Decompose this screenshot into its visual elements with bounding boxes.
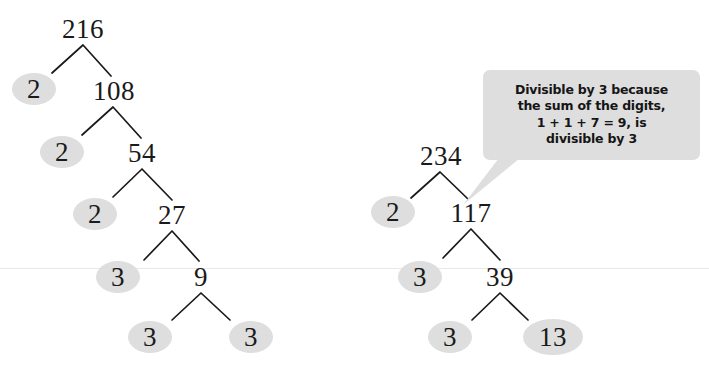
factor-tree-216-branch-4 [172, 293, 230, 320]
composite-node-108-2: 108 [89, 76, 139, 106]
factor-tree-234-branch-2 [472, 293, 528, 320]
prime-factor-node-2-1: 2 [371, 196, 415, 228]
composite-node-234-0: 234 [416, 141, 466, 171]
factor-tree-figure: 216210825422739332342117339313 Divisible… [0, 0, 709, 379]
prime-factor-node-3-3: 3 [398, 261, 442, 293]
composite-node-216-0: 216 [60, 14, 106, 44]
factor-tree-216-branch-0 [52, 45, 111, 76]
prime-factor-node-3-7: 3 [96, 261, 140, 293]
composite-node-9-8: 9 [189, 262, 213, 292]
prime-factor-node-13-6: 13 [523, 319, 583, 355]
factor-tree-216-branch-2 [113, 169, 172, 200]
factor-tree-216-branch-3 [144, 231, 199, 261]
callout-line-0: Divisible by 3 because [515, 82, 668, 99]
factor-tree-216-branch-1 [82, 107, 141, 138]
composite-node-39-4: 39 [480, 262, 520, 292]
prime-factor-node-3-10: 3 [229, 321, 273, 353]
prime-factor-node-3-5: 3 [428, 321, 472, 353]
prime-factor-node-2-3: 2 [40, 136, 84, 168]
composite-node-117-2: 117 [446, 198, 496, 228]
tree-branches-layer [0, 0, 709, 379]
composite-node-54-4: 54 [122, 138, 162, 168]
callout-line-3: divisible by 3 [546, 131, 637, 148]
prime-factor-node-3-9: 3 [128, 321, 172, 353]
callout-line-2: 1 + 1 + 7 = 9, is [537, 115, 647, 132]
factor-tree-234-branch-0 [411, 172, 468, 199]
callout-line-1: the sum of the digits, [518, 98, 666, 115]
factor-tree-234-branch-1 [443, 229, 500, 260]
prime-factor-node-2-1: 2 [12, 73, 56, 105]
divisibility-callout: Divisible by 3 becausethe sum of the dig… [483, 70, 700, 160]
prime-factor-node-2-5: 2 [73, 198, 117, 230]
composite-node-27-6: 27 [152, 200, 192, 230]
